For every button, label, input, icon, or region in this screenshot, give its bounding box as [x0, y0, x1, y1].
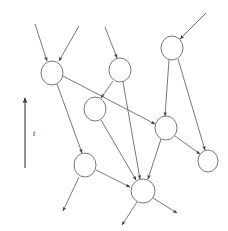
internal-edge-group	[57, 59, 205, 187]
internal-edge	[165, 60, 169, 116]
vertex-node	[74, 153, 96, 177]
vertex-node	[131, 179, 155, 203]
internal-edge	[175, 136, 200, 154]
outgoing-edge	[122, 202, 137, 225]
outgoing-edge	[153, 198, 177, 213]
vertex-node	[41, 61, 63, 85]
outgoing-edge-group	[63, 177, 177, 225]
vertex-node	[161, 36, 183, 60]
internal-edge	[101, 120, 136, 180]
incoming-edge	[105, 27, 117, 58]
vertex-node	[198, 150, 218, 172]
vertex-node	[155, 116, 177, 140]
internal-edge	[101, 81, 113, 98]
time-axis: t	[25, 98, 36, 168]
outgoing-edge	[63, 177, 79, 211]
internal-edge	[123, 82, 140, 179]
spacetime-diagram: t	[0, 0, 228, 231]
incoming-edge	[35, 24, 47, 61]
internal-edge	[148, 139, 161, 179]
incoming-edge-group	[35, 13, 206, 61]
internal-edge	[178, 59, 205, 150]
incoming-edge	[59, 26, 79, 61]
incoming-edge	[180, 13, 206, 39]
internal-edge	[96, 170, 130, 187]
diagram-canvas: t	[0, 0, 228, 231]
time-axis-label: t	[33, 129, 36, 138]
vertex-node	[109, 58, 131, 82]
vertex-node	[84, 97, 106, 121]
internal-edge	[57, 84, 82, 153]
internal-edge	[63, 76, 155, 124]
